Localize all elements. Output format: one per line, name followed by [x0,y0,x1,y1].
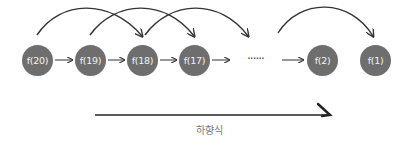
node-f18: f(18) [127,45,158,76]
arc-f18-ellipsis [145,8,248,36]
node-f1: f(1) [360,45,391,76]
curved-edges [37,7,373,36]
node-f17: f(17) [179,45,210,76]
node-f2: f(2) [307,45,338,76]
direction-label: 하향식 [196,122,223,137]
arc-f19-f17 [90,8,194,36]
arc-f20-f18 [37,8,142,36]
arc-ellipsis-f1 [278,7,373,36]
ellipsis: ······ [247,53,264,65]
node-f20: f(20) [22,45,53,76]
node-f19: f(19) [75,45,106,76]
direction-arrow [95,104,330,116]
